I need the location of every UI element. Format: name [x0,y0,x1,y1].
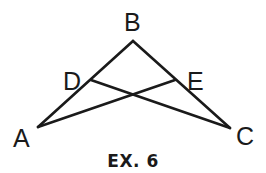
segment-ae [38,80,175,127]
figure-caption: EX. 6 [107,151,158,171]
point-label-c: C [236,122,254,150]
point-label-d: D [63,67,81,95]
geometry-diagram: B D E A C EX. 6 [0,0,266,173]
point-label-a: A [13,124,30,152]
segment-dc [91,80,230,128]
point-label-e: E [187,67,204,95]
segment-bc [133,41,230,128]
point-label-b: B [124,8,141,36]
segment-ab [38,41,133,127]
